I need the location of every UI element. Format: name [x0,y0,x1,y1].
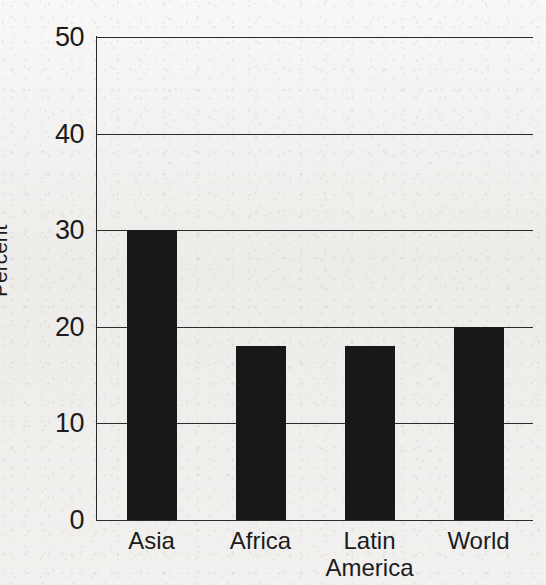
y-tick-label-40: 40 [14,118,84,149]
bar-chart-figure: Percent 01020304050 AsiaAfricaLatin Amer… [0,0,546,585]
gridline-50 [97,37,533,38]
x-tick-label-1: Africa [230,528,291,555]
x-tick-label-2: Latin America [325,528,413,582]
bar-asia [127,230,177,520]
x-tick-label-0: Asia [128,528,175,555]
bar-africa [236,346,286,520]
y-tick-label-0: 0 [14,505,84,536]
y-tick-label-10: 10 [14,408,84,439]
y-tick-label-30: 30 [14,215,84,246]
bar-world [454,327,504,520]
y-tick-label-20: 20 [14,311,84,342]
y-tick-label-50: 50 [14,22,84,53]
plot-area [97,37,533,520]
gridline-0 [97,520,533,521]
x-tick-label-3: World [447,528,509,555]
bar-latin-america [345,346,395,520]
gridline-40 [97,134,533,135]
